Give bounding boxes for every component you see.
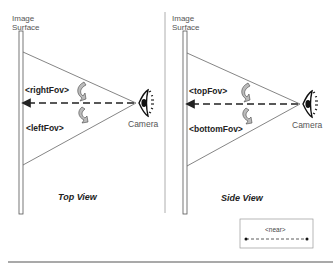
legend-near-label: <near>: [265, 226, 286, 233]
side-view-caption: Side View: [221, 193, 263, 203]
curved-arrow-upper-icon: [78, 82, 86, 101]
top-fov-label: <topFov>: [189, 86, 227, 96]
label-line: Image: [172, 14, 200, 23]
label-line: Image: [12, 14, 40, 23]
curved-arrow-lower-icon: [243, 108, 252, 124]
label-line: Surface: [172, 23, 200, 32]
curved-arrow-lower-icon: [79, 107, 88, 123]
bottom-fov-label: <bottomFov>: [189, 124, 243, 134]
legend-box: [240, 219, 313, 248]
eye-icon: [303, 91, 318, 117]
image-surface-bar: [19, 31, 23, 214]
label-line: Surface: [12, 23, 40, 32]
curved-arrow-upper-icon: [242, 83, 250, 102]
top-view-caption: Top View: [58, 192, 97, 202]
left-fov-label: <leftFov>: [26, 123, 64, 133]
camera-label: Camera: [292, 120, 322, 130]
image-surface-label: Image Surface: [12, 14, 40, 32]
camera-label: Camera: [128, 119, 158, 129]
right-fov-label: <rightFov>: [25, 85, 69, 95]
eye-icon: [139, 90, 154, 116]
image-surface-bar: [183, 31, 187, 214]
image-surface-label: Image Surface: [172, 14, 200, 32]
